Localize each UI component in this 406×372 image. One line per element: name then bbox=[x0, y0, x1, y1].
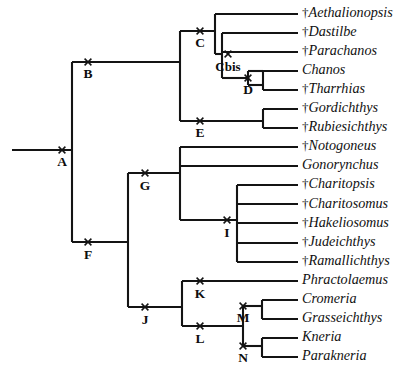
node-label-I: I bbox=[224, 225, 229, 240]
taxon-label-charitopsis: †Charitopsis bbox=[302, 176, 375, 192]
node-label-D: D bbox=[243, 82, 253, 97]
taxon-label-tharrhias: †Tharrhias bbox=[302, 80, 365, 96]
taxon-label-cromeria: Cromeria bbox=[302, 290, 357, 306]
taxon-label-chanos: Chanos bbox=[302, 61, 346, 77]
cladogram-canvas: ABCCbisDEFGIJKLMN †Aethalionopsis†Dastil… bbox=[0, 0, 406, 372]
taxon-label-ramallichthys: †Ramallichthys bbox=[302, 252, 390, 268]
node-label-N: N bbox=[238, 350, 248, 365]
taxon-labels-group: †Aethalionopsis†Dastilbe†ParachanosChano… bbox=[301, 4, 393, 363]
taxon-name: Notogoneus bbox=[308, 138, 377, 154]
taxon-label-charitosomus: †Charitosomus bbox=[302, 195, 389, 211]
taxon-label-parakneria: Parakneria bbox=[301, 347, 367, 363]
taxon-name: Hakeliosomus bbox=[308, 214, 390, 230]
taxon-label-gonorynchus: Gonorynchus bbox=[302, 157, 379, 173]
taxon-name: Grasseichthys bbox=[302, 309, 383, 325]
node-label-B: B bbox=[83, 66, 92, 81]
taxon-name: Cromeria bbox=[302, 290, 357, 306]
taxon-label-rubiesichthys: †Rubiesichthys bbox=[302, 119, 388, 135]
taxon-name: Judeichthys bbox=[309, 233, 376, 249]
node-label-M: M bbox=[237, 310, 250, 325]
taxon-name: Rubiesichthys bbox=[308, 119, 388, 135]
taxon-label-dastilbe: †Dastilbe bbox=[302, 23, 357, 39]
taxon-label-notogoneus: †Notogoneus bbox=[302, 138, 377, 154]
node-label-G: G bbox=[140, 178, 151, 193]
node-label-J: J bbox=[142, 312, 149, 327]
node-label-K: K bbox=[195, 286, 206, 301]
node-label-E: E bbox=[195, 125, 204, 140]
branch-lines-group bbox=[12, 14, 298, 357]
taxon-label-gordichthys: †Gordichthys bbox=[302, 100, 379, 116]
taxon-name: Gordichthys bbox=[309, 100, 379, 116]
taxon-name: Phractolaemus bbox=[301, 271, 388, 287]
taxon-label-phractolaemus: Phractolaemus bbox=[301, 271, 388, 287]
node-label-Cbis: Cbis bbox=[215, 59, 240, 74]
taxon-name: Aethalionopsis bbox=[308, 4, 394, 20]
taxon-label-parachanos: †Parachanos bbox=[302, 42, 378, 58]
node-label-C: C bbox=[195, 35, 205, 50]
taxon-label-aethalionopsis: †Aethalionopsis bbox=[302, 4, 393, 20]
taxon-label-grasseichthys: Grasseichthys bbox=[302, 309, 383, 325]
taxon-name: Gonorynchus bbox=[302, 157, 379, 173]
taxon-label-judeichthys: †Judeichthys bbox=[302, 233, 376, 249]
taxon-label-kneria: Kneria bbox=[301, 328, 341, 344]
taxon-name: Chanos bbox=[302, 61, 346, 77]
node-label-F: F bbox=[84, 247, 92, 262]
taxon-name: Tharrhias bbox=[309, 80, 366, 96]
taxon-name: Parakneria bbox=[301, 347, 367, 363]
node-label-L: L bbox=[195, 331, 204, 346]
taxon-name: Kneria bbox=[301, 328, 341, 344]
cladogram-figure: ABCCbisDEFGIJKLMN †Aethalionopsis†Dastil… bbox=[0, 0, 406, 372]
taxon-name: Ramallichthys bbox=[308, 252, 391, 268]
node-label-A: A bbox=[57, 154, 67, 169]
taxon-name: Charitopsis bbox=[309, 176, 376, 192]
taxon-name: Dastilbe bbox=[308, 23, 357, 39]
taxon-label-hakeliosomus: †Hakeliosomus bbox=[302, 214, 389, 230]
taxon-name: Parachanos bbox=[308, 42, 378, 58]
taxon-name: Charitosomus bbox=[309, 195, 389, 211]
